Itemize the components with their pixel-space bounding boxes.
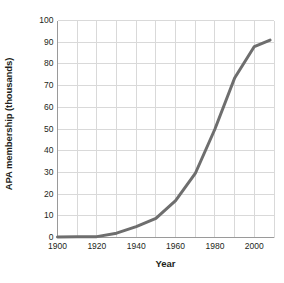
x-tick-label: 1940 [116, 242, 156, 251]
x-tick-label: 1900 [38, 242, 78, 251]
x-tick-label: 1960 [156, 242, 196, 251]
data-series [58, 40, 271, 237]
x-tick-label: 1920 [77, 242, 117, 251]
y-tick-label: 100 [30, 16, 54, 25]
gridlines [58, 21, 275, 238]
y-tick-label: 30 [30, 168, 54, 177]
y-tick-label: 70 [30, 81, 54, 90]
y-tick-label: 90 [30, 38, 54, 47]
y-tick-label: 40 [30, 146, 54, 155]
y-tick-label: 20 [30, 190, 54, 199]
x-tick-label: 1980 [195, 242, 235, 251]
y-tick-label: 10 [30, 211, 54, 220]
x-tick-label: 2000 [234, 242, 274, 251]
y-tick-label: 50 [30, 125, 54, 134]
y-tick-label: 80 [30, 59, 54, 68]
chart-figure: APA membership (thousands) Year 01020304… [0, 0, 284, 283]
y-tick-label: 60 [30, 103, 54, 112]
